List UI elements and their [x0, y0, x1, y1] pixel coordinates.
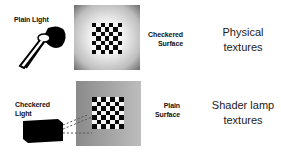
surface-label-line2: Surface: [150, 110, 180, 119]
spotlight-icon: [14, 22, 70, 72]
light-label-line1: Checkered: [15, 100, 50, 109]
plain-surface-label: Plain Surface: [150, 101, 180, 119]
caption-line1: Physical: [207, 25, 279, 40]
projector-icon: [20, 115, 92, 145]
caption-line2: textures: [207, 113, 279, 128]
physical-textures-caption: Physical textures: [207, 25, 279, 55]
shader-lamp-textures-caption: Shader lamp textures: [207, 98, 279, 128]
caption-line2: textures: [207, 40, 279, 55]
checkerboard: [92, 23, 122, 54]
caption-line1: Shader lamp: [207, 98, 279, 113]
checker-square: [118, 50, 122, 54]
checkered-surface-label: Checkered Surface: [145, 30, 183, 48]
surface-label-line1: Checkered: [145, 30, 183, 39]
checker-square: [119, 124, 124, 129]
surface-label-line1: Plain: [150, 101, 180, 110]
surface-label-line2: Surface: [145, 39, 183, 48]
checkered-surface-panel: [74, 5, 140, 70]
projected-checkerboard: [92, 97, 124, 129]
